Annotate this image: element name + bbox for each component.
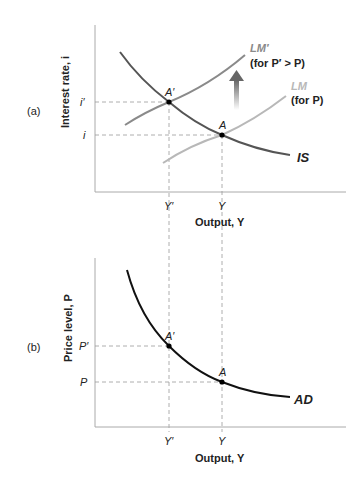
- price-level-axis-label: Price level, P: [62, 294, 74, 362]
- point-a: [219, 132, 224, 137]
- lm-note: (for P): [291, 94, 324, 106]
- lm-prime-label: LM′: [250, 42, 270, 54]
- shift-arrow-shaft: [234, 80, 239, 110]
- tick-p-prime: P′: [79, 340, 89, 352]
- panel-b-tag: (b): [27, 341, 40, 353]
- tick-y-prime: Y′: [164, 200, 174, 212]
- shift-arrow-up-icon: [229, 70, 244, 81]
- is-label: IS: [297, 150, 310, 165]
- lm-prime-note: (for P′ > P): [250, 57, 305, 69]
- tick-i: i: [83, 129, 86, 141]
- point-a-prime: [166, 99, 171, 104]
- is-lm-ad-diagram: (a) Interest rate, i i′ i Y′ Y Output, Y…: [0, 0, 364, 480]
- label-a-prime: A′: [164, 330, 175, 342]
- point-a-prime: [166, 343, 171, 348]
- tick-i-prime: i′: [80, 96, 85, 108]
- lm-label: LM: [291, 80, 308, 92]
- tick-y-prime: Y′: [164, 435, 174, 447]
- point-a: [219, 379, 224, 384]
- label-a: A: [218, 119, 226, 131]
- interest-rate-axis-label: Interest rate, i: [59, 56, 71, 128]
- label-a-prime: A′: [164, 86, 175, 98]
- tick-p: P: [80, 376, 88, 388]
- output-axis-label: Output, Y: [195, 216, 245, 228]
- tick-y: Y: [218, 200, 226, 212]
- label-a: A: [218, 366, 226, 378]
- panel-a-tag: (a): [27, 105, 40, 117]
- tick-y: Y: [218, 435, 226, 447]
- ad-curve: [127, 270, 290, 397]
- ad-label: AD: [293, 392, 313, 407]
- output-axis-label: Output, Y: [195, 452, 245, 464]
